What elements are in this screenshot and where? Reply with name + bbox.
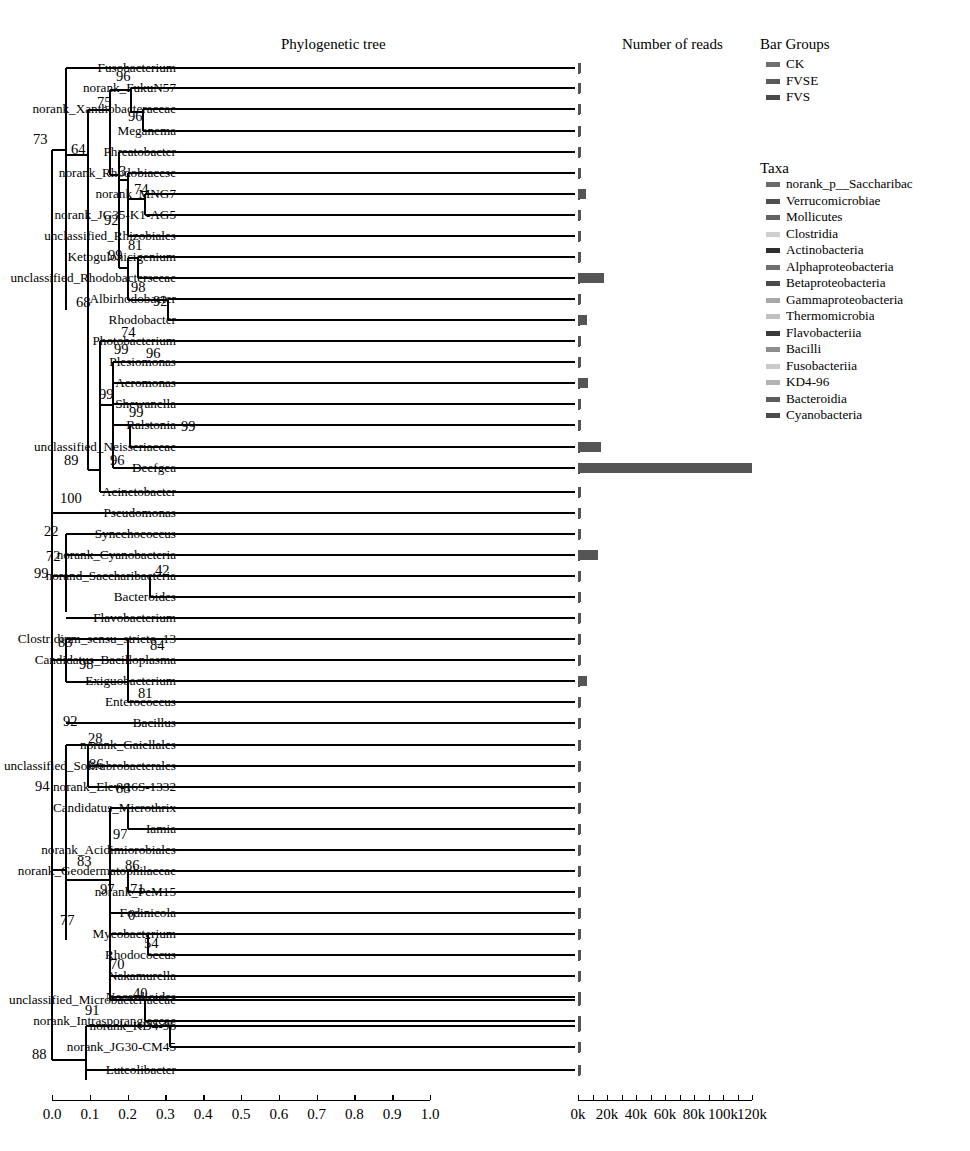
tree-axis-label: 0.1 [80,1106,99,1123]
reads-bar [578,1042,581,1052]
reads-bar [578,761,581,771]
bootstrap-value: 81 [128,238,143,253]
reads-bar [578,508,581,518]
bootstrap-value: 97 [113,827,128,842]
reads-axis-tick [738,1095,739,1100]
bootstrap-value: 77 [60,913,75,928]
bootstrap-value: 99 [34,566,49,581]
tree-axis-tick [128,1095,129,1100]
reads-axis-tick [636,1095,637,1100]
reads-bar [578,592,581,602]
tree-axis-label: 0.8 [345,1106,364,1123]
reads-axis-tick [680,1095,681,1100]
tip-label: Luteolibacter [106,1063,176,1076]
reads-axis-tick [752,1095,753,1100]
legend-label: CK [786,56,804,72]
tip-label: norank_Cyanobacteria [57,548,176,561]
reads-bar [578,866,581,876]
bootstrap-value: 84 [150,638,165,653]
reads-bar [578,252,581,262]
tip-label: Exiguobacterium [85,674,176,687]
legend-label: FVS [786,89,810,105]
bootstrap-value: 75 [97,95,112,110]
legend-label: KD4-96 [786,374,829,390]
reads-bar [578,971,581,981]
legend-swatch [766,265,780,270]
reads-panel-title: Number of reads [622,36,723,53]
bootstrap-value: 96 [116,69,131,84]
reads-axis-tick [578,1095,579,1100]
reads-bar [578,995,581,1005]
bootstrap-value: 28 [88,731,103,746]
reads-bar [578,571,581,581]
legend-swatch [766,199,780,204]
reads-bar [578,315,587,325]
tip-label: Shewanella [115,397,176,410]
bootstrap-value: 97 [100,882,115,897]
reads-axis-label: 0k [571,1106,586,1123]
legend-label: norank_p__Saccharibac [786,176,913,192]
bootstrap-value: 99 [114,342,129,357]
legend-swatch [766,347,780,352]
legend-label: Verrucomicrobiae [786,193,880,209]
tree-axis-label: 0.6 [269,1106,288,1123]
bootstrap-value: 73 [33,132,48,147]
bootstrap-value: 42 [155,563,170,578]
tip-label: norank_JG30-CM45 [67,1040,176,1053]
legend-label: Mollicutes [786,209,842,225]
tree-axis-tick [165,1095,166,1100]
tip-label: Candidatus_Bacilloplasma [35,653,176,666]
legend-label: Actinobacteria [786,242,864,258]
legend-title-taxa: Taxa [760,160,789,177]
reads-bar [578,104,581,114]
tree-axis-label: 0.4 [194,1106,213,1123]
reads-axis-label: 100k [708,1106,738,1123]
reads-axis-label: 60k [654,1106,677,1123]
bootstrap-value: 83 [77,854,92,869]
tip-label: unclassified_Neisseriaceae [34,440,176,453]
tip-label: Meganema [117,124,176,137]
bootstrap-value: 22 [44,524,59,539]
tip-label: Aeromonas [115,376,176,389]
reads-bar [578,231,581,241]
bootstrap-value: 92 [153,294,168,309]
tree-axis-tick [241,1095,242,1100]
bootstrap-value: 72 [46,549,61,564]
legend-swatch [766,331,780,336]
legend-swatch [766,79,780,84]
tree-axis-tick [279,1095,280,1100]
tip-label-column: Fusobacteriumnorank_FukuN57norank_Xantho… [0,0,574,1151]
reads-bar [578,676,587,686]
reads-bar [578,529,581,539]
reads-axis-tick [709,1095,710,1100]
bootstrap-value: 100 [60,491,82,506]
bootstrap-value: 68 [76,295,91,310]
reads-axis-tick [723,1095,724,1100]
reads-bar [578,487,581,497]
reads-bar [578,740,581,750]
tip-label: Acinetobacter [102,485,176,498]
reads-bar [578,950,581,960]
bootstrap-value: 96 [110,453,125,468]
tree-axis-tick [354,1095,355,1100]
legend-swatch [766,215,780,220]
bootstrap-value: 81 [138,686,153,701]
tree-axis-tick [203,1095,204,1100]
reads-bar [578,550,598,560]
bootstrap-value: 92 [63,714,78,729]
reads-bar [578,294,581,304]
reads-bar [578,442,601,452]
legend-swatch [766,281,780,286]
tree-axis-label: 1.0 [421,1106,440,1123]
tree-axis-tick [392,1095,393,1100]
tip-label: Iamia [146,822,176,835]
legend-label: Bacilli [786,341,821,357]
tip-label: Candidatus_Microthrix [53,801,176,814]
reads-bar [578,634,581,644]
legend-label: Fusobacteriia [786,358,857,374]
legend-swatch [766,232,780,237]
tree-axis-label: 0.2 [118,1106,137,1123]
legend-label: Flavobacteriia [786,325,861,341]
legend-swatch [766,248,780,253]
bootstrap-value: 96 [128,109,143,124]
